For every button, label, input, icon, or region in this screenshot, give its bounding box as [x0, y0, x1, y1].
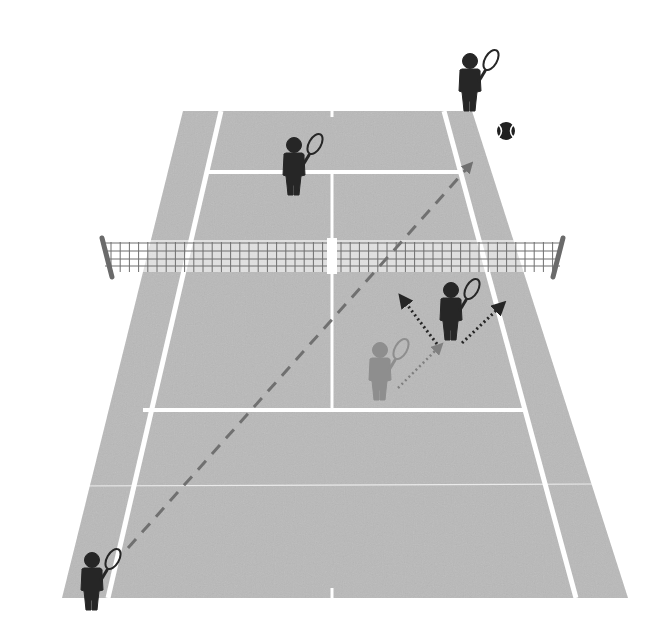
net — [102, 238, 563, 277]
tennis-ball-icon — [497, 122, 515, 140]
tennis-court-diagram: Doubles tennis court: cross-court shot f… — [0, 0, 670, 635]
player-far-baseline — [459, 47, 502, 111]
